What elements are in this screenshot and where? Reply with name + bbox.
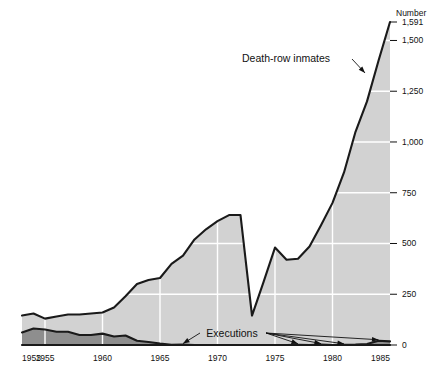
x-tick-label: 1980 xyxy=(323,353,342,363)
x-tick-label: 1960 xyxy=(93,353,112,363)
y-tick-label: 1,000 xyxy=(402,137,424,147)
y-tick-label: 1,591 xyxy=(402,17,424,27)
executions-annotation-label: Executions xyxy=(206,327,257,339)
death-row-inmates-chart: 02505007501,0001,2501,5001,591 195319551… xyxy=(0,0,444,381)
x-axis-tick-labels: 19531955196019651970197519801985 xyxy=(22,353,390,363)
death-row-inmates-area xyxy=(22,22,390,345)
y-tick-label: 250 xyxy=(402,289,416,299)
death-row-annotation-label: Death-row inmates xyxy=(242,52,330,64)
death-row-annotation: Death-row inmates xyxy=(242,52,365,73)
y-tick-label: 750 xyxy=(402,188,416,198)
chart-canvas: 02505007501,0001,2501,5001,591 195319551… xyxy=(0,0,444,381)
x-tick-label: 1970 xyxy=(208,353,227,363)
y-axis-tick-labels: 02505007501,0001,2501,5001,591 xyxy=(390,17,424,350)
x-tick-label: 1965 xyxy=(151,353,170,363)
y-tick-label: 1,250 xyxy=(402,86,424,96)
x-tick-label: 1955 xyxy=(36,353,55,363)
y-axis-title: Number xyxy=(396,8,426,18)
death-row-annotation-leader-arrow xyxy=(352,59,365,73)
y-tick-label: 500 xyxy=(402,238,416,248)
x-tick-label: 1985 xyxy=(371,353,390,363)
y-tick-label: 1,500 xyxy=(402,35,424,45)
plot-background xyxy=(22,22,390,345)
y-tick-label: 0 xyxy=(402,340,407,350)
x-tick-label: 1975 xyxy=(266,353,285,363)
